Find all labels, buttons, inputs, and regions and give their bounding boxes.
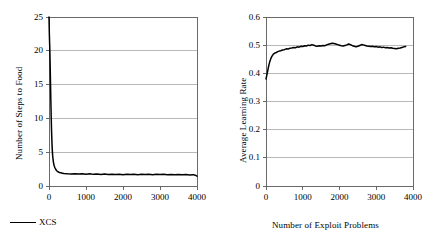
- x-tick-label: 1000: [283, 193, 323, 202]
- x-tick-label: 4000: [177, 193, 217, 202]
- x-tick-label: 0: [29, 193, 69, 202]
- y-tick-label: 10: [9, 114, 43, 123]
- y-tick-label: 20: [9, 46, 43, 55]
- y-tick-label: 5: [9, 148, 43, 157]
- legend-xcs: XCS: [10, 218, 57, 227]
- chart-panel-average-learning-rate: 00.10.20.30.40.50.601000200030004000: [224, 0, 448, 248]
- x-tick-label: 4000: [393, 193, 433, 202]
- y-tick-label: 0: [226, 182, 260, 191]
- x-tick-label: 0: [246, 193, 286, 202]
- y-tick-label: 15: [9, 80, 43, 89]
- y-tick-label: 0.5: [226, 41, 260, 50]
- x-tick-label: 2000: [103, 193, 143, 202]
- right-y-axis-title: Average Learning Rate: [238, 78, 248, 163]
- y-tick-label: 25: [9, 13, 43, 22]
- steps-to-food-plot: [0, 0, 224, 248]
- legend-line-icon: [10, 222, 36, 223]
- y-tick-label: 0: [9, 182, 43, 191]
- y-tick-label: 0.4: [226, 69, 260, 78]
- x-tick-label: 1000: [66, 193, 106, 202]
- chart-panel-steps-to-food: Number of Steps to Food XCS 051015202501…: [0, 0, 224, 248]
- x-tick-label: 3000: [356, 193, 396, 202]
- x-tick-label: 2000: [320, 193, 360, 202]
- x-tick-label: 3000: [140, 193, 180, 202]
- y-tick-label: 0.6: [226, 13, 260, 22]
- two-panel-figure: Number of Steps to Food XCS 051015202501…: [0, 0, 448, 248]
- right-x-axis-title: Number of Exploit Problems: [272, 220, 379, 230]
- legend-label-xcs: XCS: [39, 218, 57, 227]
